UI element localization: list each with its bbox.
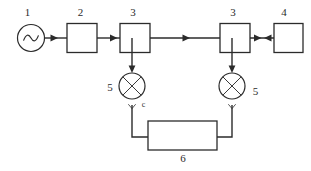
label-block3-left: 3 (130, 6, 136, 18)
arrowhead-toward-block3-right (264, 35, 272, 42)
arrowhead-into-block2 (51, 35, 59, 42)
arrowhead-into-mixer-right (229, 66, 236, 74)
node-block3-right[interactable] (220, 24, 250, 53)
arrowhead-midline (183, 35, 191, 42)
diagram-canvas: 1 2 3 3 4 (0, 0, 311, 171)
node-mixer-left[interactable] (119, 73, 145, 99)
wire-mixer-left-to-block6 (132, 105, 148, 137)
label-block4: 4 (281, 6, 287, 18)
label-block6: 6 (180, 152, 186, 164)
label-mixer-right: 5 (253, 85, 259, 97)
arrowhead-toward-block4 (254, 35, 262, 42)
block6-rect (148, 121, 217, 150)
wire-mixer-right-to-block6 (217, 105, 232, 137)
block3-left-rect (120, 24, 150, 53)
label-block3-right: 3 (230, 6, 236, 18)
node-source[interactable] (18, 25, 45, 52)
node-mixer-right[interactable] (219, 73, 245, 99)
label-block2: 2 (78, 6, 84, 18)
block3-right-rect (220, 24, 250, 53)
block-diagram: 1 2 3 3 4 (0, 0, 311, 171)
arrowhead-into-mixer-left (129, 66, 136, 74)
node-block2[interactable] (67, 24, 97, 53)
arrowhead-into-block3-left (110, 35, 118, 42)
node-block6[interactable] (148, 121, 217, 150)
block4-rect (274, 24, 303, 53)
label-signal-c: c (142, 100, 146, 109)
node-block3-left[interactable] (120, 24, 150, 53)
block2-rect (67, 24, 97, 53)
node-block4[interactable] (274, 24, 303, 53)
label-source: 1 (25, 6, 31, 18)
label-mixer-left: 5 (107, 81, 113, 93)
